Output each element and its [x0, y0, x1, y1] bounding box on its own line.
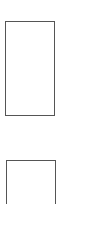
page-thumbnail-2[interactable] — [6, 160, 56, 204]
page-thumbnail-1[interactable] — [5, 21, 55, 116]
